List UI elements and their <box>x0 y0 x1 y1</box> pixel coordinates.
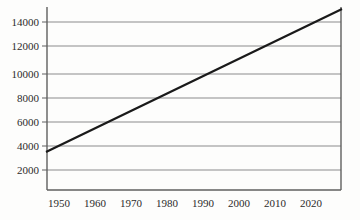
x-tick-label-1960: 1960 <box>84 197 107 209</box>
x-tick-label-1950: 1950 <box>48 197 71 209</box>
y-tick-label-8000: 8000 <box>17 92 40 104</box>
y-tick-label-14000: 14000 <box>12 16 40 28</box>
x-tick-label-1980: 1980 <box>156 197 179 209</box>
y-tick-label-2000: 2000 <box>17 164 40 176</box>
y-tick-label-6000: 6000 <box>17 116 40 128</box>
y-tick-label-12000: 12000 <box>12 40 40 52</box>
line-chart: 14000 12000 10000 8000 6000 4000 2000 19… <box>0 0 360 220</box>
chart-background <box>0 0 360 220</box>
y-tick-label-4000: 4000 <box>17 140 40 152</box>
x-tick-label-2000: 2000 <box>228 197 251 209</box>
x-tick-label-2010: 2010 <box>264 197 287 209</box>
x-tick-label-1990: 1990 <box>192 197 215 209</box>
chart-canvas: 14000 12000 10000 8000 6000 4000 2000 19… <box>0 0 360 220</box>
x-tick-label-1970: 1970 <box>120 197 143 209</box>
x-tick-label-2020: 2020 <box>300 197 323 209</box>
y-tick-label-10000: 10000 <box>12 68 40 80</box>
